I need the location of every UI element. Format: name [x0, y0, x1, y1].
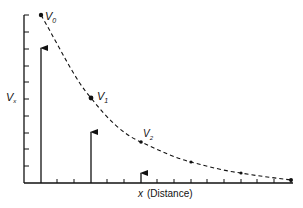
- point-6: [289, 178, 293, 182]
- label-v1: V1: [97, 90, 108, 104]
- y-axis-ticks: [24, 15, 29, 166]
- point-v0: [39, 13, 43, 17]
- label-v2: V2: [143, 128, 154, 141]
- y-axis-label: Vx: [6, 91, 17, 104]
- decay-curve: [41, 15, 291, 180]
- point-5: [239, 171, 242, 174]
- decay-diagram: V0 V1 V2 Vx x(Distance): [0, 0, 303, 208]
- x-axis-label: x(Distance): [137, 188, 193, 199]
- label-v0: V0: [45, 10, 56, 24]
- point-v1: [89, 96, 94, 101]
- point-v2: [139, 140, 143, 144]
- point-4: [189, 160, 192, 163]
